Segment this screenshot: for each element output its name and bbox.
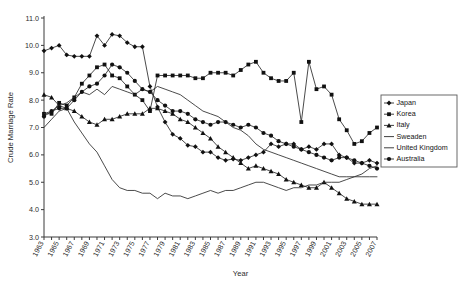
x-tick-label: 1967	[61, 240, 76, 258]
data-point	[345, 128, 349, 132]
x-tick-label: 1989	[227, 240, 242, 258]
data-point	[103, 63, 107, 67]
data-point	[87, 84, 91, 88]
data-point	[102, 73, 106, 77]
data-point	[193, 125, 198, 130]
y-tick-label: 7.0	[29, 123, 39, 132]
data-point	[125, 85, 129, 89]
x-tick-label: 1979	[151, 240, 166, 258]
data-point	[368, 131, 372, 135]
chart-legend: JapanKoreaItalySweadenUnited KingdomAust…	[381, 95, 457, 167]
data-point	[337, 117, 341, 121]
x-tick-label: 2003	[333, 240, 348, 258]
data-point	[87, 120, 92, 125]
data-point	[307, 60, 311, 64]
data-point	[163, 74, 167, 78]
x-tick-label: 1995	[272, 240, 287, 258]
data-point	[170, 132, 175, 137]
x-tick-label: 1999	[303, 240, 318, 258]
data-point	[246, 63, 250, 67]
data-point	[254, 152, 259, 157]
data-point	[277, 79, 281, 83]
legend-swatch-marker	[387, 157, 391, 161]
data-series	[42, 32, 380, 206]
series-united-kingdom	[44, 86, 377, 176]
data-point	[375, 126, 379, 130]
data-point	[80, 90, 84, 94]
data-point	[49, 46, 54, 51]
data-point	[261, 131, 265, 135]
data-point	[329, 158, 333, 162]
data-point	[49, 109, 53, 113]
x-tick-label: 1997	[288, 240, 303, 258]
data-point	[231, 123, 235, 127]
data-point	[238, 161, 243, 166]
y-axis-title: Crude Marriage Rate	[6, 92, 15, 163]
x-tick-label: 1977	[136, 240, 151, 258]
legend-item-label: Italy	[397, 120, 411, 129]
data-point	[178, 117, 183, 122]
data-point	[276, 144, 281, 149]
data-point	[186, 112, 190, 116]
data-point	[72, 98, 76, 102]
data-point	[110, 74, 114, 78]
data-point	[329, 185, 334, 190]
data-point	[239, 125, 243, 129]
data-point	[262, 71, 266, 75]
data-point	[307, 150, 311, 154]
data-point	[337, 156, 341, 160]
data-point	[110, 62, 114, 66]
data-point	[193, 117, 197, 121]
data-point	[352, 158, 356, 162]
data-point	[201, 120, 205, 124]
data-point	[133, 79, 137, 83]
data-point	[292, 71, 296, 75]
data-point	[360, 161, 364, 165]
axes: 3.04.05.06.07.08.09.010.011.019631965196…	[25, 14, 379, 258]
x-tick-label: 1983	[182, 240, 197, 258]
data-point	[42, 48, 47, 53]
x-tick-label: 1987	[212, 240, 227, 258]
data-point	[178, 109, 182, 113]
data-point	[156, 74, 160, 78]
data-point	[155, 98, 159, 102]
data-point	[140, 44, 145, 49]
data-point	[277, 139, 281, 143]
legend-item-label: Sweaden	[397, 132, 427, 141]
data-point	[329, 142, 334, 147]
data-point	[246, 155, 251, 160]
data-point	[171, 74, 175, 78]
data-point	[186, 74, 190, 78]
data-point	[193, 76, 197, 80]
y-tick-label: 4.0	[29, 205, 39, 214]
data-point	[375, 166, 379, 170]
x-tick-label: 2005	[348, 240, 363, 258]
data-point	[314, 153, 318, 157]
data-point	[322, 85, 326, 89]
y-tick-label: 6.0	[29, 150, 39, 159]
data-point	[42, 114, 46, 118]
data-point	[200, 130, 205, 135]
data-point	[224, 71, 228, 75]
data-point	[80, 82, 84, 86]
data-point	[315, 87, 319, 91]
x-tick-label: 1993	[257, 240, 272, 258]
data-point	[345, 156, 349, 160]
data-point	[284, 142, 288, 146]
x-axis-title: Year	[233, 269, 249, 278]
legend-item-label: United Kingdom	[397, 143, 448, 152]
x-tick-label: 2001	[318, 240, 333, 258]
data-point	[178, 74, 182, 78]
y-tick-label: 11.0	[26, 14, 39, 23]
chart-container: 3.04.05.06.07.08.09.010.011.019631965196…	[0, 0, 460, 290]
data-point	[299, 147, 303, 151]
data-point	[330, 93, 334, 97]
data-point	[208, 136, 213, 141]
data-point	[352, 142, 356, 146]
data-point	[223, 158, 228, 163]
data-point	[231, 74, 235, 78]
data-point	[88, 74, 92, 78]
data-point	[87, 54, 92, 59]
y-tick-label: 8.0	[29, 96, 39, 105]
data-point	[284, 177, 289, 182]
